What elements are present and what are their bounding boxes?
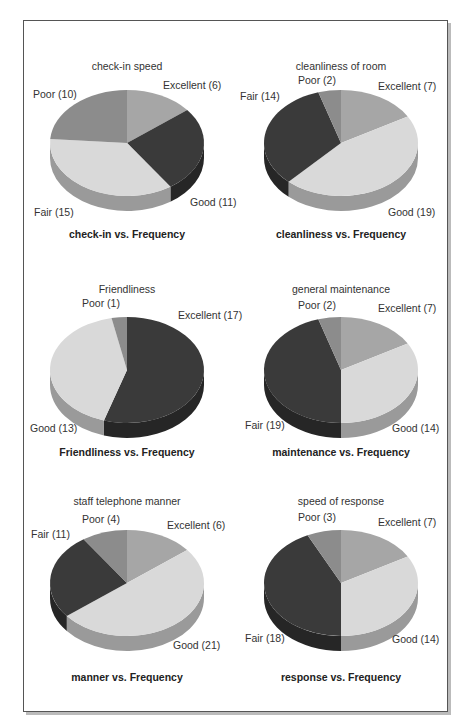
slice-label-fair: Fair (15) bbox=[34, 206, 74, 218]
pie-title: cleanliness of room bbox=[234, 60, 448, 72]
pie-caption: manner vs. Frequency bbox=[20, 671, 234, 683]
slice-label-excellent: Excellent (7) bbox=[378, 302, 436, 314]
slice-label-poor: Poor (3) bbox=[298, 511, 336, 523]
pie-caption: cleanliness vs. Frequency bbox=[234, 228, 448, 240]
pie-title: Friendliness bbox=[20, 283, 234, 295]
slice-label-excellent: Excellent (6) bbox=[163, 79, 221, 91]
pie-caption: check-in vs. Frequency bbox=[20, 228, 234, 240]
slice-label-good: Good (21) bbox=[173, 639, 220, 651]
slice-label-poor: Poor (4) bbox=[82, 513, 120, 525]
slice-label-excellent: Excellent (6) bbox=[167, 519, 225, 531]
pie-title: general maintenance bbox=[234, 283, 448, 295]
pie-chart-1 bbox=[50, 90, 204, 211]
slice-label-excellent: Excellent (17) bbox=[178, 309, 242, 321]
slice-label-fair: Fair (18) bbox=[245, 632, 285, 644]
pie-chart-5 bbox=[50, 530, 204, 651]
pie-caption: response vs. Frequency bbox=[234, 671, 448, 683]
slice-label-good: Good (14) bbox=[392, 633, 439, 645]
slice-label-fair: Fair (14) bbox=[240, 90, 280, 102]
pie-chart-3 bbox=[50, 317, 204, 438]
slice-label-poor: Poor (10) bbox=[33, 88, 77, 100]
pie-title: speed of response bbox=[234, 495, 448, 507]
slice-label-excellent: Excellent (7) bbox=[378, 80, 436, 92]
slice-label-poor: Poor (2) bbox=[298, 74, 336, 86]
pie-title: check-in speed bbox=[20, 60, 234, 72]
slice-label-good: Good (14) bbox=[392, 422, 439, 434]
pie-chart-2 bbox=[264, 90, 418, 211]
slice-label-good: Good (19) bbox=[388, 206, 435, 218]
slice-label-fair: Fair (11) bbox=[31, 528, 70, 540]
pie-title: staff telephone manner bbox=[20, 495, 234, 507]
slice-label-good: Good (13) bbox=[30, 422, 77, 434]
slice-label-fair: Fair (19) bbox=[245, 419, 285, 431]
pie-caption: maintenance vs. Frequency bbox=[234, 446, 448, 458]
slice-label-excellent: Excellent (7) bbox=[378, 516, 436, 528]
slice-label-poor: Poor (1) bbox=[82, 297, 120, 309]
slice-label-good: Good (11) bbox=[190, 196, 237, 208]
pie-charts-svg bbox=[0, 0, 469, 724]
pie-chart-4 bbox=[264, 317, 418, 438]
pie-caption: Friendliness vs. Frequency bbox=[20, 446, 234, 458]
slice-label-poor: Poor (2) bbox=[298, 299, 336, 311]
